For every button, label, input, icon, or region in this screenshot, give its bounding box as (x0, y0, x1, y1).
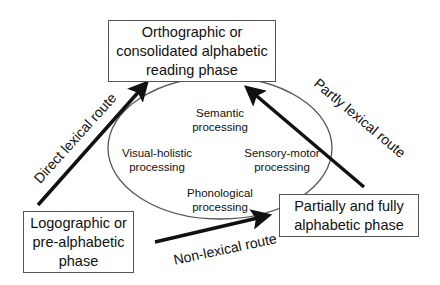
node-text: Partially and fully (294, 197, 404, 216)
node-text: Logographic or (30, 214, 127, 233)
label-line: Visual-holistic (107, 146, 207, 160)
node-text: alphabetic phase (294, 216, 404, 235)
node-text: consolidated alphabetic (116, 42, 268, 61)
node-text: reading phase (146, 61, 238, 80)
semantic-processing-label: Semantic processing (175, 106, 265, 134)
node-text: Orthographic or (142, 23, 243, 42)
logographic-phase-box: Logographic or pre-alphabetic phase (23, 211, 134, 273)
label-line: Semantic (175, 106, 265, 120)
phonological-processing-label: Phonological processing (170, 186, 270, 214)
node-text: phase (59, 252, 99, 271)
alphabetic-phase-box: Partially and fully alphabetic phase (279, 194, 419, 237)
label-line: processing (175, 120, 265, 134)
visual-holistic-label: Visual-holistic processing (107, 146, 207, 174)
node-text: pre-alphabetic (33, 233, 125, 252)
label-line: processing (107, 160, 207, 174)
sensory-motor-label: Sensory-motor processing (232, 146, 332, 174)
orthographic-phase-box: Orthographic or consolidated alphabetic … (108, 20, 276, 82)
label-line: processing (170, 200, 270, 214)
label-line: processing (232, 160, 332, 174)
label-line: Phonological (170, 186, 270, 200)
label-line: Sensory-motor (232, 146, 332, 160)
